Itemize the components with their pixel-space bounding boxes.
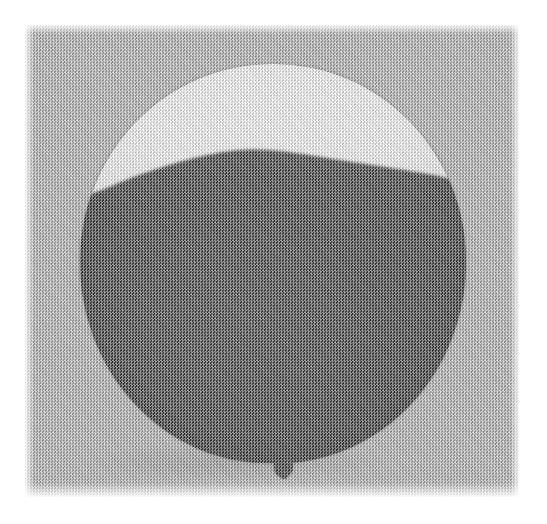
balloon-subject [80,64,466,463]
page-canvas [0,0,547,524]
balloon-highlight-cap [80,64,466,463]
balloon-highlight-clip [80,64,466,463]
balloon-knot-tip [280,472,288,479]
photograph-plate [25,25,519,497]
